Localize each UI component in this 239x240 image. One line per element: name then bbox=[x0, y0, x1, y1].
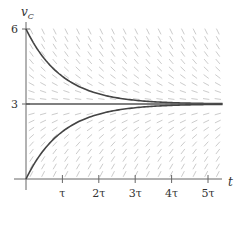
slope-segment bbox=[123, 36, 126, 42]
slope-segment bbox=[110, 75, 115, 79]
slope-segment bbox=[146, 134, 151, 138]
slope-segment bbox=[158, 171, 161, 177]
slope-segment bbox=[133, 113, 139, 115]
slope-segment bbox=[65, 156, 69, 161]
slope-segment bbox=[192, 59, 196, 64]
slope-segment bbox=[181, 67, 186, 71]
slope-segment bbox=[134, 67, 139, 71]
slope-segment bbox=[88, 59, 92, 64]
slope-segment bbox=[204, 149, 208, 154]
slope-segment bbox=[180, 120, 186, 123]
slope-segment bbox=[170, 44, 173, 49]
slope-segment bbox=[77, 171, 80, 177]
slope-segment bbox=[77, 29, 80, 35]
slope-segment bbox=[181, 164, 184, 170]
slope-segment bbox=[181, 51, 185, 56]
slope-segment bbox=[122, 90, 128, 92]
slope-segment bbox=[169, 134, 174, 138]
slope-segment bbox=[146, 164, 149, 170]
slope-segment bbox=[168, 113, 174, 115]
slope-segment bbox=[170, 29, 173, 35]
slope-segment bbox=[87, 134, 92, 138]
slope-segment bbox=[41, 156, 45, 161]
slope-segment bbox=[52, 113, 58, 115]
slope-segment bbox=[110, 99, 116, 100]
slope-segment bbox=[216, 67, 221, 71]
slope-segment bbox=[170, 164, 173, 170]
slope-segment bbox=[135, 156, 139, 161]
slope-segment bbox=[146, 36, 149, 42]
slope-segment bbox=[216, 36, 219, 42]
slope-segment bbox=[53, 36, 56, 42]
slope-segment bbox=[133, 120, 139, 123]
slope-segment bbox=[63, 90, 69, 92]
slope-segment bbox=[192, 142, 196, 147]
slope-segment bbox=[193, 171, 196, 177]
slope-segment bbox=[133, 82, 139, 85]
slope-segment bbox=[145, 99, 151, 100]
slope-segment bbox=[30, 149, 34, 154]
slope-segment bbox=[147, 29, 150, 35]
slope-segment bbox=[111, 59, 115, 64]
slope-segment bbox=[99, 67, 104, 71]
slope-segment bbox=[169, 59, 173, 64]
x-axis-label: t bbox=[228, 175, 233, 189]
slope-segment bbox=[181, 149, 185, 154]
slope-segment bbox=[145, 127, 150, 131]
slope-segment bbox=[53, 44, 56, 49]
slope-segment bbox=[64, 142, 68, 147]
slope-segment bbox=[180, 90, 186, 92]
slope-segment bbox=[110, 113, 116, 115]
slope-segment bbox=[111, 164, 114, 170]
slope-segment bbox=[88, 29, 91, 35]
slope-segment bbox=[168, 82, 174, 85]
slope-segment bbox=[40, 127, 45, 131]
slope-segment bbox=[215, 99, 221, 100]
slope-segment bbox=[216, 149, 220, 154]
slope-segment bbox=[112, 29, 115, 35]
slope-segment bbox=[145, 113, 151, 115]
slope-segment bbox=[87, 67, 92, 71]
slope-segment bbox=[205, 29, 208, 35]
slope-segment bbox=[158, 59, 162, 64]
slope-segment bbox=[204, 142, 208, 147]
slope-segment bbox=[134, 142, 138, 147]
slope-segment bbox=[205, 164, 208, 170]
slope-segment bbox=[191, 99, 197, 100]
slope-segment bbox=[192, 75, 197, 79]
slope-segment bbox=[122, 142, 126, 147]
slope-segment bbox=[40, 113, 46, 115]
slope-segment bbox=[99, 142, 103, 147]
slope-segment bbox=[191, 113, 197, 115]
slope-segment bbox=[158, 156, 162, 161]
slope-segment bbox=[123, 164, 126, 170]
slope-segment bbox=[146, 51, 150, 56]
slope-segment bbox=[29, 82, 35, 85]
slope-segment bbox=[40, 120, 46, 123]
slope-segment bbox=[216, 59, 220, 64]
slope-segment bbox=[146, 67, 151, 71]
slope-segment bbox=[122, 75, 127, 79]
slope-segment bbox=[135, 44, 138, 49]
slope-segment bbox=[205, 36, 208, 42]
slope-segment bbox=[41, 75, 46, 79]
slope-segment bbox=[100, 171, 103, 177]
slope-segment bbox=[75, 75, 80, 79]
slope-segment bbox=[53, 164, 56, 170]
slope-segment bbox=[63, 113, 69, 115]
slope-segment bbox=[203, 113, 209, 115]
slope-segment bbox=[135, 29, 138, 35]
slope-segment bbox=[53, 149, 57, 154]
slope-segment bbox=[75, 99, 81, 100]
slope-segment bbox=[205, 171, 208, 177]
slope-segment bbox=[192, 120, 198, 123]
slope-segment bbox=[180, 75, 185, 79]
slope-segment bbox=[193, 164, 196, 170]
slope-segment bbox=[193, 29, 196, 35]
slope-segment bbox=[76, 59, 80, 64]
slope-segment bbox=[204, 67, 209, 71]
slope-segment bbox=[123, 44, 126, 49]
x-tick-label: τ bbox=[59, 187, 65, 200]
slope-segment bbox=[169, 75, 174, 79]
slope-segment bbox=[29, 142, 33, 147]
